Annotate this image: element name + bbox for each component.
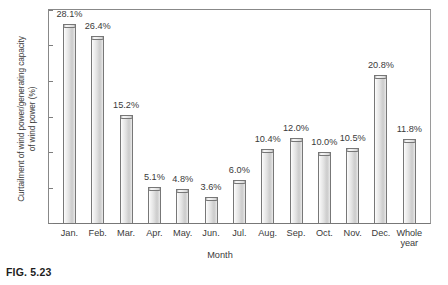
x-axis-tick-label: Whole year <box>387 228 431 248</box>
y-axis-tick-mark <box>49 117 53 118</box>
bar <box>233 180 246 223</box>
y-axis-tick-mark <box>49 152 53 153</box>
bar <box>290 138 303 223</box>
bar <box>63 24 76 224</box>
plot-area: 28.1%26.4%15.2%5.1%4.8%3.6%6.0%10.4%12.0… <box>48 9 431 224</box>
bar-value-label: 6.0% <box>217 166 261 175</box>
bar <box>120 115 133 223</box>
bar <box>261 149 274 223</box>
y-axis-tick-mark <box>49 188 53 189</box>
y-axis-title: Curtailment of wind power/generating cap… <box>16 7 46 231</box>
bar-value-label: 11.8% <box>387 125 431 134</box>
bar-value-label: 10.4% <box>246 135 290 144</box>
bar <box>374 75 387 223</box>
bar <box>176 189 189 223</box>
figure-container: Curtailment of wind power/generating cap… <box>0 0 448 285</box>
bar <box>91 36 104 223</box>
y-axis-tick-mark <box>49 81 53 82</box>
bar-value-label: 10.5% <box>331 134 375 143</box>
bar <box>148 187 161 223</box>
bar-value-label: 28.1% <box>47 10 91 19</box>
bar-value-label: 26.4% <box>76 22 120 31</box>
x-axis-title: Month <box>180 250 260 260</box>
bar-value-label: 12.0% <box>274 124 318 133</box>
y-axis-tick-mark <box>49 223 53 224</box>
bar <box>205 197 218 223</box>
bar-value-label: 15.2% <box>104 101 148 110</box>
figure-caption: FIG. 5.23 <box>6 266 52 278</box>
bar-value-label: 3.6% <box>189 183 233 192</box>
bar <box>403 139 416 223</box>
bar <box>346 148 359 223</box>
bar-value-label: 20.8% <box>359 61 403 70</box>
y-axis-tick-mark <box>49 45 53 46</box>
bar <box>318 152 331 223</box>
